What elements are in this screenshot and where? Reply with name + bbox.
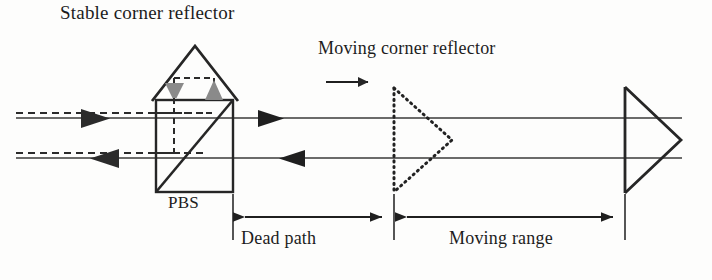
reflector-arrow-up bbox=[205, 80, 223, 100]
stable-corner-reflector bbox=[152, 46, 238, 101]
beam-arrow-left-mid bbox=[279, 150, 305, 167]
moving-corner-reflector-end bbox=[625, 87, 681, 193]
beam-arrow-right-mid bbox=[258, 110, 284, 127]
moving-reflector-label: Moving corner reflector bbox=[318, 38, 496, 59]
stable-reflector-label: Stable corner reflector bbox=[60, 2, 234, 24]
moving-range-label: Moving range bbox=[449, 228, 553, 249]
reflector-internal-arrows bbox=[165, 80, 223, 100]
stable-reflector-triangle bbox=[152, 46, 238, 101]
output-arrow-left bbox=[90, 149, 119, 168]
figure-canvas: Stable corner reflector Moving corner re… bbox=[0, 0, 712, 280]
input-arrow-right bbox=[81, 109, 110, 128]
moving-reflector-dotted-triangle bbox=[394, 88, 452, 192]
moving-reflector-solid-triangle bbox=[625, 87, 681, 193]
dead-path-label: Dead path bbox=[241, 228, 316, 249]
internal-dashed-path bbox=[156, 78, 214, 153]
pbs-label: PBS bbox=[168, 193, 199, 213]
reflector-arrow-down bbox=[165, 83, 184, 98]
moving-corner-reflector-start bbox=[394, 88, 452, 192]
